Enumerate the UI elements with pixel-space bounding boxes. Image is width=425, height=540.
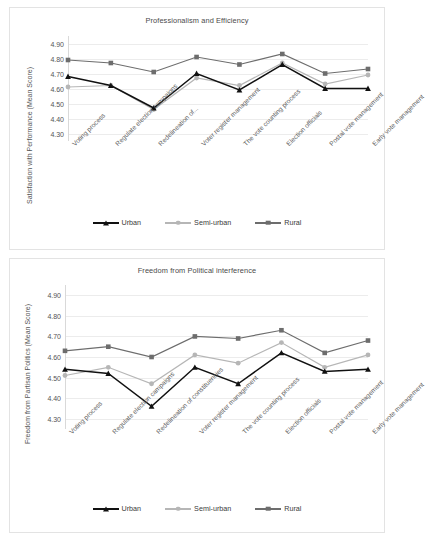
data-point-urban <box>192 364 198 369</box>
legend-label-urban: Urban <box>122 504 142 513</box>
data-point-semi-urban <box>279 340 284 345</box>
legend-item-semi-urban[interactable]: Semi-urban <box>165 218 231 227</box>
y-axis-tick-label: 4.90 <box>50 40 64 47</box>
series-line-urban <box>65 353 368 406</box>
chart-legend: Urban Semi-urban Rural <box>10 504 384 513</box>
legend-label-semi-urban: Semi-urban <box>194 504 231 513</box>
legend-marker-circle-icon <box>165 508 191 510</box>
data-point-semi-urban <box>63 373 68 378</box>
chart-legend: Urban Semi-urban Rural <box>10 218 384 227</box>
legend-label-urban: Urban <box>122 218 142 227</box>
data-point-semi-urban <box>192 353 197 358</box>
x-axis-labels: Voting processRegulate election campaign… <box>65 429 368 430</box>
chart-title: Professionalism and Efficiency <box>10 16 384 25</box>
data-point-semi-urban <box>149 381 154 386</box>
y-axis-tick-label: 4.80 <box>50 55 64 62</box>
y-axis-tick-label: 4.70 <box>47 333 61 340</box>
data-point-semi-urban <box>106 365 111 370</box>
data-point-urban <box>194 71 200 76</box>
chart-panel-professionalism: Professionalism and Efficiency Satisfact… <box>9 7 385 250</box>
legend-label-rural: Rural <box>284 218 301 227</box>
data-point-rural <box>106 344 111 349</box>
plot-area: 4.904.804.704.604.504.404.30Voting proce… <box>68 36 368 141</box>
data-point-semi-urban <box>66 85 71 90</box>
data-point-rural <box>323 71 328 76</box>
y-axis-tick-label: 4.80 <box>47 312 61 319</box>
legend-marker-triangle-icon <box>93 222 119 224</box>
data-point-rural <box>236 336 241 341</box>
y-axis-tick-label: 4.40 <box>47 395 61 402</box>
y-axis-tick-label: 4.70 <box>50 70 64 77</box>
legend-marker-square-icon <box>255 508 281 510</box>
y-axis-tick-label: 4.30 <box>47 415 61 422</box>
legend-marker-triangle-icon <box>93 508 119 510</box>
legend-item-urban[interactable]: Urban <box>93 504 142 513</box>
data-point-semi-urban <box>236 361 241 366</box>
chart-panel-freedom: Freedom from Political interference Free… <box>9 258 385 533</box>
data-point-urban <box>279 350 285 355</box>
data-point-rural <box>109 61 114 66</box>
data-point-semi-urban <box>366 73 371 78</box>
y-axis-tick-label: 4.90 <box>47 292 61 299</box>
data-point-semi-urban <box>194 76 199 81</box>
data-point-rural <box>366 338 371 343</box>
plot-area: 4.904.804.704.604.504.404.30Voting proce… <box>65 285 368 429</box>
data-point-rural <box>63 349 68 354</box>
y-axis-tick-label: 4.60 <box>50 85 64 92</box>
data-point-semi-urban <box>366 353 371 358</box>
legend-item-semi-urban[interactable]: Semi-urban <box>165 504 231 513</box>
data-point-rural <box>322 351 327 356</box>
legend-label-rural: Rural <box>284 504 301 513</box>
legend-label-semi-urban: Semi-urban <box>194 218 231 227</box>
chart-title: Freedom from Political interference <box>10 266 384 275</box>
data-point-rural <box>237 62 242 67</box>
data-point-rural <box>193 334 198 339</box>
data-point-rural <box>151 70 156 75</box>
data-point-rural <box>149 355 154 360</box>
y-axis-title: Satisfaction with Performance (Mean Scor… <box>26 63 35 208</box>
series-layer <box>65 285 368 429</box>
legend-marker-circle-icon <box>165 222 191 224</box>
y-axis-tick-label: 4.50 <box>47 374 61 381</box>
y-axis-tick-label: 4.40 <box>50 115 64 122</box>
data-point-rural <box>280 52 285 57</box>
legend-marker-square-icon <box>255 222 281 224</box>
y-axis-tick-label: 4.60 <box>47 354 61 361</box>
x-axis-labels: Voting processRegulate election campaign… <box>68 141 368 142</box>
legend-item-urban[interactable]: Urban <box>93 218 142 227</box>
data-point-rural <box>194 55 199 60</box>
y-axis-tick-label: 4.50 <box>50 100 64 107</box>
data-point-rural <box>366 67 371 72</box>
legend-item-rural[interactable]: Rural <box>255 218 301 227</box>
x-axis-tick-label: Early vote management <box>371 381 425 435</box>
series-line-urban <box>68 65 368 109</box>
data-point-rural <box>279 328 284 333</box>
legend-item-rural[interactable]: Rural <box>255 504 301 513</box>
y-axis-tick-label: 4.30 <box>50 130 64 137</box>
y-axis-title: Freedom from Partisan Politics (Mean Sco… <box>24 274 33 474</box>
x-axis-tick-label: Early vote management <box>371 93 425 147</box>
data-point-rural <box>66 58 71 63</box>
